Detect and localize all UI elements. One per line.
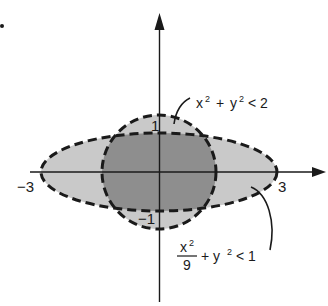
svg-text:x: x	[196, 95, 203, 111]
svg-text:2: 2	[227, 247, 232, 257]
figure-marker-dot	[0, 24, 4, 28]
svg-text:2: 2	[239, 94, 244, 104]
ellipse-equation-label: x 2 9 + y 2 < 1	[177, 238, 256, 273]
svg-text:2: 2	[205, 94, 210, 104]
region-diagram: −3 3 1 −1 x 2 + y 2 < 2 x 2 9 + y 2 < 1	[0, 0, 328, 306]
tick-label-pos-x: 3	[278, 178, 286, 195]
svg-text:9: 9	[183, 257, 191, 273]
tick-label-pos-y: 1	[151, 117, 159, 134]
circle-equation-label: x 2 + y 2 < 2	[196, 94, 268, 111]
tick-label-neg-y: −1	[138, 210, 155, 227]
svg-text:x: x	[180, 239, 187, 255]
y-axis-arrow-icon	[155, 13, 165, 30]
svg-text:y: y	[230, 95, 237, 111]
svg-text:2: 2	[189, 238, 194, 248]
svg-text:+: +	[216, 95, 224, 111]
svg-text:< 1: < 1	[236, 248, 256, 264]
svg-text:< 2: < 2	[248, 95, 268, 111]
tick-label-neg-x: −3	[17, 178, 34, 195]
svg-text:+ y: + y	[201, 248, 220, 264]
x-axis-arrow-icon	[312, 167, 326, 177]
